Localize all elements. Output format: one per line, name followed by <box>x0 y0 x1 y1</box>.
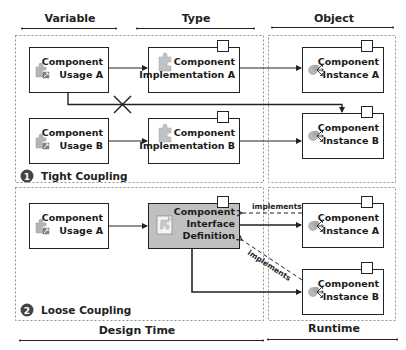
interface-definition-box[interactable]: Component Interface Definition <box>149 197 240 249</box>
tight-coupling-caption: 1 Tight Coupling <box>21 170 128 183</box>
tight-instance-b-label-2: Instance B <box>323 135 379 146</box>
loose-usage-a-label-1: Component <box>42 212 104 223</box>
header-type: Type <box>136 12 255 30</box>
definition-label-3: Definition <box>183 230 236 241</box>
implements-label-b: implements <box>246 248 293 283</box>
interface-definition-icon <box>157 216 172 234</box>
definition-label-1: Component <box>174 206 236 217</box>
coupling-diagram: Variable Type Object Component Usage A C… <box>0 0 406 350</box>
header-type-label: Type <box>182 12 211 25</box>
loose-usage-a-box[interactable]: Component Usage A <box>30 204 109 249</box>
footer-design-time-label: Design Time <box>99 324 176 337</box>
loose-instance-b-label-1: Component <box>318 278 380 289</box>
footer-runtime: Runtime <box>267 322 398 341</box>
header-variable: Variable <box>21 12 117 30</box>
tight-instance-b-label-1: Component <box>318 122 380 133</box>
port-square-icon <box>362 263 373 274</box>
loose-instance-b-label-2: Instance B <box>323 291 379 302</box>
loose-coupling-caption: 2 Loose Coupling <box>21 304 132 317</box>
loose-instance-b-box[interactable]: Component Instance B <box>303 263 384 315</box>
tight-instance-a-box[interactable]: Component Instance A <box>303 41 384 93</box>
tight-impl-b-box[interactable]: Component Implementation B <box>139 112 239 164</box>
tight-coupling-title: Tight Coupling <box>41 170 128 182</box>
port-square-icon <box>362 107 373 118</box>
step-badge-2-number: 2 <box>24 306 30 316</box>
port-square-icon <box>362 41 373 52</box>
tight-impl-a-box[interactable]: Component Implementation A <box>139 41 239 93</box>
tight-impl-a-label-2: Implementation A <box>139 69 235 80</box>
tight-usage-a-label-1: Component <box>42 56 104 67</box>
port-square-icon <box>218 112 229 123</box>
implements-label-a: implements <box>252 202 302 211</box>
loose-usage-a-label-2: Usage A <box>59 225 103 236</box>
tight-instance-a-label-2: Instance A <box>323 69 380 80</box>
footer-runtime-label: Runtime <box>308 322 360 335</box>
header-object-label: Object <box>314 12 354 25</box>
footer-design-time: Design Time <box>19 324 264 342</box>
tight-usage-b-label-1: Component <box>42 127 104 138</box>
loose-instance-a-box[interactable]: Component Instance A <box>303 197 384 248</box>
port-square-icon <box>218 41 229 52</box>
tight-instance-a-label-1: Component <box>318 56 380 67</box>
tight-impl-b-label-1: Component <box>174 127 236 138</box>
tight-usage-b-label-2: Usage B <box>59 140 103 151</box>
tight-usage-b-box[interactable]: Component Usage B <box>30 119 109 164</box>
tight-instance-b-box[interactable]: Component Instance B <box>303 107 384 159</box>
loose-instance-a-label-1: Component <box>318 212 380 223</box>
step-badge-1-number: 1 <box>24 172 30 182</box>
implements-arrow-instance-b <box>242 240 302 280</box>
tight-impl-a-label-1: Component <box>174 56 236 67</box>
loose-coupling-title: Loose Coupling <box>41 304 131 316</box>
definition-label-2: Interface <box>186 218 235 229</box>
arrow-usage-a-to-instance-b <box>68 92 342 112</box>
header-object: Object <box>271 12 394 29</box>
loose-instance-a-label-2: Instance A <box>323 225 380 236</box>
tight-impl-b-label-2: Implementation B <box>139 140 235 151</box>
tight-usage-a-label-2: Usage A <box>59 69 103 80</box>
tight-usage-a-box[interactable]: Component Usage A <box>30 48 109 93</box>
port-square-icon <box>362 197 373 208</box>
header-variable-label: Variable <box>44 12 95 25</box>
